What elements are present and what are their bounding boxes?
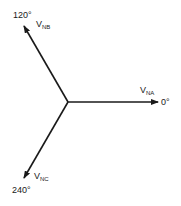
phasor-vc-label: VNC — [34, 172, 49, 181]
va-subscript: NA — [146, 90, 154, 96]
angle-240-label: 240° — [12, 186, 31, 195]
phasor-vb-line — [24, 26, 68, 102]
phasor-va-label: VNA — [140, 86, 154, 95]
phasor-diagram — [0, 0, 181, 206]
vc-subscript: NC — [40, 176, 49, 182]
phasor-vc-line — [24, 102, 68, 178]
vb-subscript: NB — [42, 24, 50, 30]
angle-0-label: 0° — [161, 98, 170, 107]
phasor-vb-label: VNB — [36, 20, 50, 29]
angle-120-label: 120° — [13, 11, 32, 20]
